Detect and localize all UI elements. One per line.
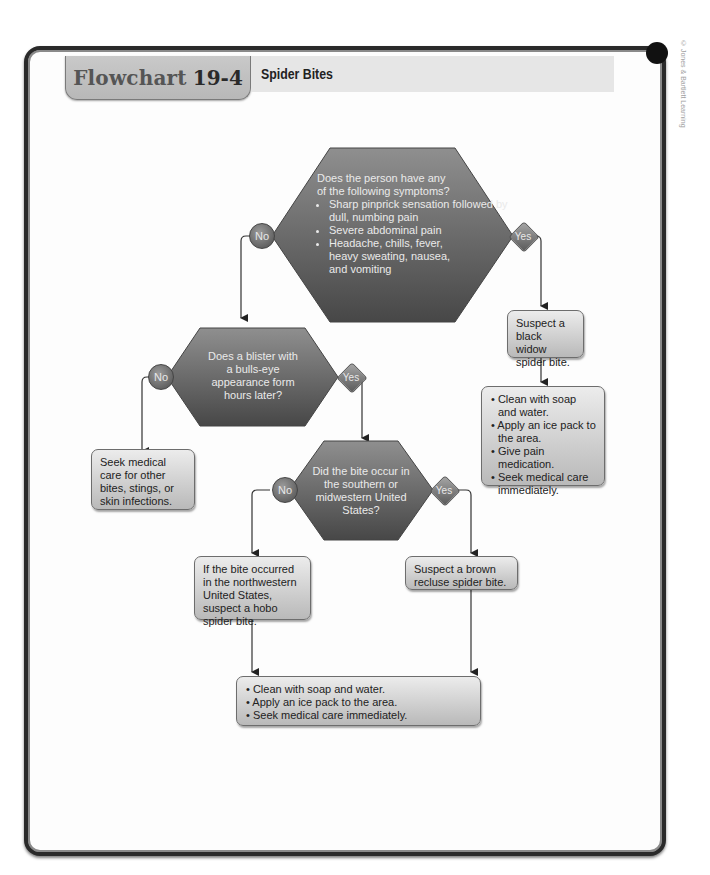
action-item: Give pain medication.: [498, 445, 596, 471]
black-widow-box: Suspect a black widow spider bite.: [507, 310, 584, 358]
action-item: Apply an ice pack to the area.: [253, 696, 472, 709]
blister-question: Does a blister with a bulls-eye appearan…: [208, 350, 298, 402]
black-widow-actions-list: Clean with soap and water. Apply an ice …: [490, 393, 596, 497]
final-actions-box: Clean with soap and water. Apply an ice …: [236, 676, 481, 726]
no-marker-symptoms: No: [249, 223, 275, 249]
symptoms-question-intro: Does the person have any of the followin…: [317, 172, 457, 198]
no-marker-blister: No: [148, 364, 174, 390]
no-label: No: [255, 230, 269, 242]
symptoms-list: Sharp pinprick sensation followed by dul…: [317, 198, 517, 276]
symptom-item: Headache, chills, fever, heavy sweating,…: [329, 237, 459, 276]
yes-marker-blister: Yes: [335, 364, 367, 390]
action-item: Apply an ice pack to the area.: [498, 419, 596, 445]
yes-marker-symptoms: Yes: [507, 223, 539, 249]
yes-marker-region: Yes: [428, 477, 460, 503]
yes-label: Yes: [515, 231, 531, 242]
action-item: Clean with soap and water.: [498, 393, 596, 419]
no-marker-region: No: [272, 477, 298, 503]
yes-label: Yes: [436, 485, 452, 496]
action-item: Seek medical care immediately.: [498, 471, 596, 497]
other-care-box: Seek medical care for other bites, sting…: [91, 449, 195, 510]
symptoms-question: Does the person have any of the followin…: [317, 172, 517, 276]
brown-recluse-box: Suspect a brown recluse spider bite.: [405, 556, 518, 590]
action-item: Seek medical care immediately.: [253, 709, 472, 722]
region-question: Did the bite occur in the southern or mi…: [307, 465, 415, 517]
no-label: No: [278, 484, 292, 496]
yes-label: Yes: [343, 372, 359, 383]
black-widow-actions-box: Clean with soap and water. Apply an ice …: [481, 386, 605, 486]
action-item: Clean with soap and water.: [253, 683, 472, 696]
symptom-item: Severe abdominal pain: [329, 224, 517, 237]
hobo-spider-box: If the bite occurred in the northwestern…: [194, 556, 311, 620]
no-label: No: [154, 371, 168, 383]
symptom-item: Sharp pinprick sensation followed by dul…: [329, 198, 517, 224]
final-actions-list: Clean with soap and water. Apply an ice …: [245, 683, 472, 722]
